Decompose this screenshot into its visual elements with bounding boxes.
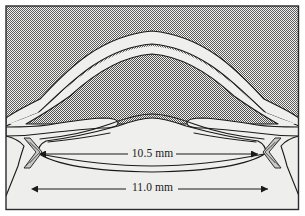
overall-diameter-label: 11.0 mm <box>0 182 305 194</box>
equatorial-diameter-text: 10.5 mm <box>129 148 177 160</box>
equatorial-diameter-label: 10.5 mm <box>0 148 305 160</box>
overall-diameter-text: 11.0 mm <box>129 182 176 194</box>
eye-lens-figure: 10.5 mm 11.0 mm <box>0 0 305 216</box>
